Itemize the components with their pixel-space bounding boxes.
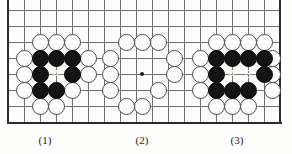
black-stone xyxy=(208,50,225,67)
white-stone xyxy=(48,34,65,51)
white-stone xyxy=(224,98,241,115)
white-stone xyxy=(208,34,225,51)
figure-caption: (3) xyxy=(217,134,257,146)
white-stone xyxy=(102,82,119,99)
black-stone xyxy=(64,50,81,67)
figure-caption: (1) xyxy=(25,134,65,146)
black-stone xyxy=(32,82,49,99)
white-stone xyxy=(166,66,183,83)
white-stone xyxy=(32,34,49,51)
star-point xyxy=(140,72,144,76)
white-stone xyxy=(192,82,209,99)
go-diagram-figure: AAB (1)(2)(3) xyxy=(0,0,292,154)
black-stone xyxy=(32,66,49,83)
black-stone xyxy=(224,82,241,99)
white-stone xyxy=(16,50,33,67)
white-stone xyxy=(134,98,151,115)
black-stone xyxy=(48,82,65,99)
board-edge-left xyxy=(7,0,9,123)
white-stone xyxy=(80,66,97,83)
white-stone xyxy=(150,34,167,51)
black-stone xyxy=(64,66,81,83)
white-stone xyxy=(64,34,81,51)
stone-marker-label: A xyxy=(224,69,241,80)
board-edge-bottom xyxy=(7,122,282,124)
grid-line-horizontal xyxy=(8,10,280,11)
black-stone xyxy=(48,50,65,67)
black-stone xyxy=(240,50,257,67)
white-stone xyxy=(256,34,273,51)
grid-line-vertical xyxy=(152,0,153,122)
white-stone xyxy=(166,50,183,67)
white-stone xyxy=(240,98,257,115)
white-stone xyxy=(48,98,65,115)
grid-line-horizontal xyxy=(8,26,280,27)
grid-line-vertical xyxy=(184,0,185,122)
white-stone xyxy=(224,34,241,51)
black-stone xyxy=(224,50,241,67)
black-stone xyxy=(256,50,273,67)
white-stone xyxy=(192,66,209,83)
white-stone xyxy=(102,50,119,67)
white-stone xyxy=(80,50,97,67)
white-stone xyxy=(208,98,225,115)
white-stone xyxy=(118,34,135,51)
white-stone xyxy=(64,82,81,99)
white-stone xyxy=(16,82,33,99)
black-stone xyxy=(32,50,49,67)
stone-marker-label: B xyxy=(240,69,257,80)
white-stone xyxy=(118,98,135,115)
black-stone xyxy=(240,82,257,99)
white-stone xyxy=(32,98,49,115)
white-stone xyxy=(150,82,167,99)
go-board: AAB xyxy=(0,0,292,134)
white-stone xyxy=(16,66,33,83)
stone-marker-label: A xyxy=(48,69,65,80)
black-stone xyxy=(208,66,225,83)
black-stone xyxy=(208,82,225,99)
white-stone xyxy=(192,50,209,67)
white-stone xyxy=(102,66,119,83)
figure-caption: (2) xyxy=(122,134,162,146)
black-stone xyxy=(256,66,273,83)
white-stone xyxy=(264,82,281,99)
white-stone xyxy=(240,34,257,51)
white-stone xyxy=(134,34,151,51)
